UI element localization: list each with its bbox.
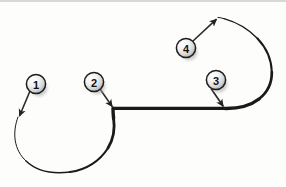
leader-line-4 xyxy=(193,19,217,41)
leader-lines-group xyxy=(20,19,224,116)
path-diagram: 1 2 3 4 xyxy=(0,0,286,187)
marker-2-ball[interactable] xyxy=(84,72,103,91)
marker-2[interactable]: 2 xyxy=(84,72,107,96)
marker-1[interactable]: 1 xyxy=(26,74,49,98)
marker-4[interactable]: 4 xyxy=(176,38,199,62)
marker-3-ball[interactable] xyxy=(206,70,225,89)
leader-line-1 xyxy=(20,91,31,116)
right-loop-arc xyxy=(218,17,272,108)
main-curve-group xyxy=(15,17,272,172)
left-loop-arc xyxy=(15,108,114,172)
marker-4-ball[interactable] xyxy=(176,38,195,57)
diagram-canvas: 1 2 3 4 xyxy=(0,0,286,187)
marker-1-ball[interactable] xyxy=(26,74,45,93)
marker-3[interactable]: 3 xyxy=(206,70,229,94)
